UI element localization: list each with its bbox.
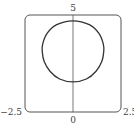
x-max-label: 2.5 — [123, 107, 134, 117]
y-max-label: 5 — [70, 3, 76, 13]
x-min-label: −2.5 — [0, 107, 22, 117]
y-min-label: 0 — [70, 115, 76, 125]
plot-area: 5 0 −2.5 2.5 — [0, 0, 134, 128]
